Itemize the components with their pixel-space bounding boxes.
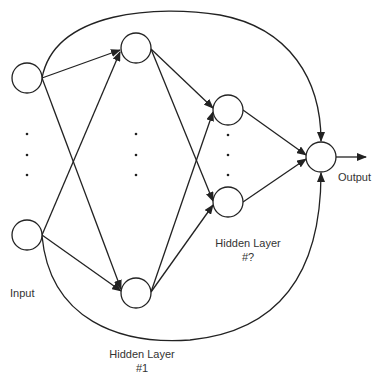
hidden2-node-top — [213, 95, 243, 125]
input-node-bottom — [12, 220, 42, 250]
skip-connection-top — [42, 11, 321, 141]
hidden1-node-top — [121, 33, 151, 63]
hidden1-node-bottom — [121, 278, 151, 308]
hidden-layer-last-number: #? — [208, 250, 288, 264]
hidden-layer-first-label: Hidden Layer #1 — [102, 347, 182, 375]
input-label: Input — [10, 286, 34, 300]
hidden-layer-first-number: #1 — [102, 361, 182, 375]
hidden-layer-last-label: Hidden Layer #? — [208, 236, 288, 264]
hidden2-node-bottom — [213, 187, 243, 217]
input-node-top — [12, 63, 42, 93]
output-label: Output — [338, 170, 371, 184]
neural-network-diagram — [0, 0, 379, 380]
output-node — [306, 142, 336, 172]
hidden-layer-last-title: Hidden Layer — [208, 236, 288, 250]
hidden-layer-first-title: Hidden Layer — [102, 347, 182, 361]
